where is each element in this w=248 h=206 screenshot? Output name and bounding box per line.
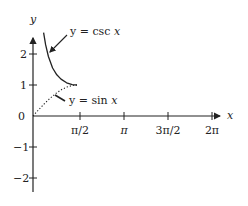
csc-curve bbox=[44, 33, 77, 85]
x-tick-label-pi-2: π/2 bbox=[71, 124, 89, 137]
sin-annotation-arrow bbox=[55, 95, 65, 101]
x-tick-label-pi: π bbox=[119, 124, 128, 137]
csc-annotation-arrow bbox=[50, 35, 67, 52]
y-tick-label-m1: −1 bbox=[13, 141, 29, 154]
x-tick-label-2pi: 2π bbox=[205, 124, 219, 137]
x-tick-label-3pi-2: 3π/2 bbox=[156, 124, 181, 137]
origin-label: 0 bbox=[18, 110, 25, 123]
x-axis-label: x bbox=[227, 109, 234, 122]
chart-canvas: 2 1 0 −1 −2 π/2 π 3π/2 2π y x y = csc x … bbox=[0, 0, 248, 206]
sin-label: y = sin x bbox=[68, 94, 118, 107]
y-tick-label-1: 1 bbox=[20, 79, 27, 92]
y-tick-label-2: 2 bbox=[20, 48, 27, 61]
y-axis-label: y bbox=[29, 13, 37, 26]
csc-label: y = csc x bbox=[69, 25, 121, 38]
y-tick-label-m2: −2 bbox=[13, 172, 29, 185]
